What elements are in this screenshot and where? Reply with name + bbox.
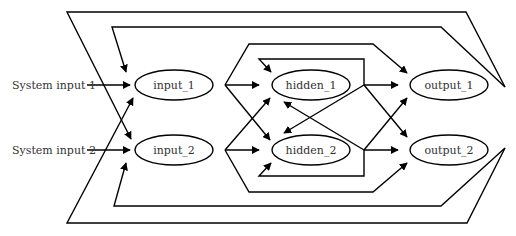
node-hidden_1[interactable]: hidden_1 xyxy=(272,70,350,100)
edge-input_1-hidden_2 xyxy=(225,85,270,140)
network-diagram: System input 1 System input 2 input_1 in… xyxy=(0,0,516,236)
node-output_1-label: output_1 xyxy=(424,79,473,92)
node-hidden_2[interactable]: hidden_2 xyxy=(272,135,350,165)
node-input_2[interactable]: input_2 xyxy=(135,135,213,165)
edge-hidden_1-output_2 xyxy=(364,85,407,137)
system-input-2-label: System input 2 xyxy=(12,144,96,157)
edges xyxy=(67,12,505,223)
edge-input_2-hidden_1 xyxy=(225,98,270,150)
node-input_1-label: input_1 xyxy=(153,79,195,92)
edge-hidden_2-output_1 xyxy=(364,98,407,150)
node-input_2-label: input_2 xyxy=(153,144,195,157)
system-inputs: System input 1 System input 2 xyxy=(12,79,96,157)
node-output_2-label: output_2 xyxy=(424,144,473,157)
node-hidden_2-label: hidden_2 xyxy=(286,144,337,157)
nodes: input_1 input_2 hidden_1 hidden_2 output… xyxy=(135,70,488,165)
node-output_1[interactable]: output_1 xyxy=(410,70,488,100)
system-input-1-label: System input 1 xyxy=(12,79,96,92)
node-input_1[interactable]: input_1 xyxy=(135,70,213,100)
node-output_2[interactable]: output_2 xyxy=(410,135,488,165)
node-hidden_1-label: hidden_1 xyxy=(286,79,337,92)
